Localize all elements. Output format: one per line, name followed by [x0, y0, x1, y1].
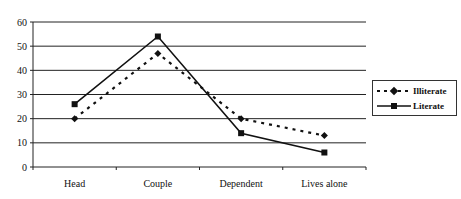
legend-item-illiterate: Illiterate [377, 84, 446, 98]
legend-item-literate: Literate [377, 99, 444, 113]
solid-square-line-icon [377, 101, 411, 111]
legend-label: Illiterate [413, 86, 446, 96]
chart-legend: Illiterate Literate [372, 80, 457, 116]
square-marker [238, 130, 244, 136]
dashed-diamond-line-icon [377, 86, 411, 96]
diamond-marker [154, 50, 161, 57]
square-marker [72, 101, 78, 107]
square-marker [321, 150, 327, 156]
x-category-label: Dependent [219, 178, 263, 189]
x-category-label: Lives alone [301, 178, 348, 189]
y-tick-label: 60 [17, 17, 27, 28]
x-category-label: Head [64, 178, 85, 189]
y-tick-label: 40 [17, 65, 27, 76]
square-marker [155, 34, 161, 40]
diamond-marker [321, 132, 328, 139]
y-tick-label: 50 [17, 41, 27, 52]
y-tick-label: 20 [17, 113, 27, 124]
legend-label: Literate [413, 101, 444, 111]
x-category-label: Couple [143, 178, 172, 189]
y-tick-label: 10 [17, 137, 27, 148]
diamond-marker [71, 115, 78, 122]
y-tick-label: 0 [22, 162, 27, 173]
y-tick-label: 30 [17, 89, 27, 100]
